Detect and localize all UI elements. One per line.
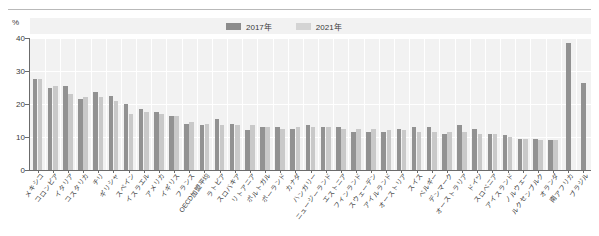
bar-2017: [33, 79, 38, 170]
legend-item-2017: 2017年: [226, 21, 272, 32]
bar-2021: [38, 79, 43, 170]
y-tick-mark-0: [25, 170, 29, 171]
header-divider: [8, 9, 591, 10]
bar-2021: [311, 127, 316, 170]
chart-legend: 2017年 2021年: [226, 18, 342, 34]
y-tick-mark-20: [25, 104, 29, 105]
y-tick-label-30: 30: [16, 67, 25, 76]
y-tick-label-10: 10: [16, 133, 25, 142]
y-tick-label-20: 20: [16, 100, 25, 109]
legend-swatch-icon-2017: [226, 23, 241, 30]
bar-2017: [109, 96, 114, 170]
bar-group: [30, 38, 45, 170]
bar-2021: [432, 132, 437, 170]
y-tick-mark-10: [25, 137, 29, 138]
legend-item-2021: 2021年: [296, 21, 342, 32]
legend-label-2017: 2017年: [246, 21, 272, 32]
bar-series-container: [30, 38, 591, 170]
y-tick-mark-40: [25, 38, 29, 39]
y-tick-label-40: 40: [16, 34, 25, 43]
x-axis-labels: メキシココロンビアイタリアコスタリカチリギリシャスペインイスラエルアメリカイギリ…: [30, 172, 591, 236]
y-axis: 010203040: [0, 0, 25, 236]
legend-swatch-icon-2021: [296, 23, 311, 30]
legend-label-2021: 2021年: [316, 21, 342, 32]
figure: % 2017年 2021年 010203040 メキシココロンビアイタリアコスタ…: [0, 0, 599, 236]
y-tick-mark-30: [25, 71, 29, 72]
bar-2021: [114, 101, 119, 170]
